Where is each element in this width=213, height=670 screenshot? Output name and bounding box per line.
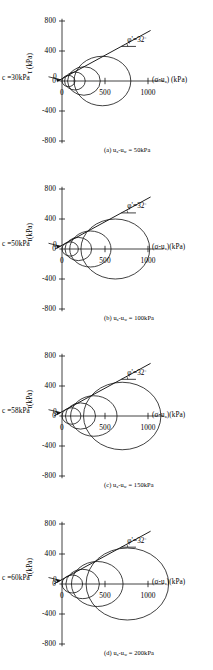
phi-angle-label: φ'=32° [127,36,146,44]
mohr-panel-c: τ(kPa)8004000-400-800050010000(σ-ua)(kPa… [0,335,213,503]
cohesion-label: c =58kPa [2,407,30,415]
y-tick-label: -400 [30,609,56,618]
phi-angle-label: φ'=32° [127,369,146,377]
y-axis-title: τ(kPa) [26,222,34,241]
y-tick-label: 400 [30,46,56,55]
x-tick-label: 0 [48,591,76,600]
y-tick-label: -800 [30,304,56,313]
cohesion-label: c =60kPa [2,574,30,582]
x-tick-label: 500 [91,256,119,265]
y-tick-label: 800 [30,519,56,528]
phi-angle-label: φ'=32° [127,202,146,210]
phi-angle-label: φ'=32° [127,537,146,545]
x-tick-label: 500 [91,423,119,432]
y-tick-label: 400 [30,381,56,390]
y-tick-label: 800 [30,16,56,25]
panel-caption: (b) ua-uw = 100kPa [104,314,154,322]
x-tick-label: 0 [48,88,76,97]
y-tick-label: -800 [30,471,56,480]
cohesion-label: c =50kPa [2,240,30,248]
panel-caption: (a) ua-uw = 50kPa [104,146,150,154]
origin-zero-label: 0 [53,575,57,584]
x-axis-title: (σ-ua)(kPa) [152,578,185,586]
x-tick-label: 0 [48,423,76,432]
y-axis-title: τ (kPa) [26,53,34,74]
panel-caption: (c) ua-uw = 150kPa [104,481,154,489]
mohr-panel-a: τ (kPa)8004000-400-800050010000(σ-ua) (k… [0,0,213,168]
cohesion-label: c =30kPa [2,74,30,82]
origin-zero-label: 0 [53,407,57,416]
mohr-panel-b: τ(kPa)8004000-400-800050010000(σ-ua)(kPa… [0,168,213,336]
figure-sheet: τ (kPa)8004000-400-800050010000(σ-ua) (k… [0,0,213,670]
y-tick-label: 800 [30,351,56,360]
x-tick-label: 0 [48,256,76,265]
y-tick-label: -400 [30,441,56,450]
x-tick-label: 1000 [134,591,162,600]
x-axis-title: (σ-ua)(kPa) [152,243,185,251]
mohr-panel-d: τ(kPa)8004000-400-800050010000(σ-ua)(kPa… [0,503,213,670]
x-tick-label: 1000 [134,256,162,265]
y-tick-label: -400 [30,274,56,283]
x-tick-label: 500 [91,88,119,97]
x-tick-label: 1000 [134,88,162,97]
y-tick-label: 400 [30,214,56,223]
x-axis-title: (σ-ua) (kPa) [152,76,187,84]
panel-caption: (d) ua-uw = 200kPa [104,649,154,657]
origin-zero-label: 0 [53,72,57,81]
origin-zero-label: 0 [53,240,57,249]
y-tick-label: 800 [30,184,56,193]
y-tick-label: -400 [30,106,56,115]
y-tick-label: 400 [30,549,56,558]
y-tick-label: -800 [30,639,56,648]
y-tick-label: -800 [30,136,56,145]
x-tick-label: 500 [91,591,119,600]
x-tick-label: 1000 [134,423,162,432]
x-axis-title: (σ-ua)(kPa) [152,411,185,419]
